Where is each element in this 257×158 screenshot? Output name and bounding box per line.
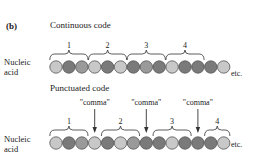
continuous-row-label-1: Nucleic [4, 57, 31, 67]
codon-brace [166, 50, 204, 60]
continuous-row-label-2: acid [4, 67, 19, 77]
codon-brace [50, 50, 88, 60]
codon-label: 1 [67, 41, 71, 50]
punctuated-title: Punctuated code [50, 83, 109, 93]
codon-label: 3 [144, 41, 148, 50]
codon-brace [101, 126, 139, 136]
comma-label: "comma" [183, 98, 213, 107]
comma-label: "comma" [131, 98, 161, 107]
codon-label: 2 [106, 41, 110, 50]
codon-brace [89, 50, 127, 60]
base-circle [63, 137, 75, 149]
punctuated-bases [50, 137, 230, 149]
base-circle [114, 61, 126, 73]
base-circle [205, 61, 217, 73]
base-circle [166, 137, 178, 149]
continuous-codon-braces: 1234 [50, 41, 204, 60]
continuous-bases [50, 61, 230, 73]
base-circle [127, 137, 139, 149]
base-circle [218, 137, 230, 149]
base-circle [192, 61, 204, 73]
codon-label: 3 [170, 117, 174, 126]
base-circle [205, 137, 217, 149]
arrow-head-icon [93, 127, 97, 133]
base-circle [101, 61, 113, 73]
base-circle [50, 137, 62, 149]
panel-label: (b) [6, 21, 17, 31]
base-circle [153, 61, 165, 73]
codon-label: 4 [215, 117, 219, 126]
punctuated-commas: "comma""comma""comma" [80, 98, 213, 133]
base-circle [89, 137, 101, 149]
genetic-code-diagram: (b) Continuous code Nucleic acid 1234 et… [0, 0, 257, 158]
codon-brace [50, 126, 88, 136]
continuous-title: Continuous code [50, 20, 111, 30]
comma-label: "comma" [80, 98, 110, 107]
codon-brace [153, 126, 191, 136]
base-circle [89, 61, 101, 73]
codon-brace [205, 126, 230, 136]
base-circle [179, 61, 191, 73]
continuous-etc: etc. [231, 69, 242, 78]
arrow-head-icon [144, 127, 148, 133]
punctuated-row-label-1: Nucleic [4, 134, 31, 144]
base-circle [179, 137, 191, 149]
base-circle [140, 61, 152, 73]
codon-label: 4 [183, 41, 187, 50]
base-circle [153, 137, 165, 149]
codon-label: 1 [67, 117, 71, 126]
base-circle [140, 137, 152, 149]
base-circle [76, 137, 88, 149]
base-circle [218, 61, 230, 73]
codon-label: 2 [119, 117, 123, 126]
punctuated-codon-braces: 1234 [50, 117, 230, 136]
base-circle [166, 61, 178, 73]
base-circle [101, 137, 113, 149]
base-circle [192, 137, 204, 149]
base-circle [114, 137, 126, 149]
base-circle [63, 61, 75, 73]
codon-brace [127, 50, 165, 60]
punctuated-etc: etc. [231, 140, 242, 149]
base-circle [50, 61, 62, 73]
base-circle [76, 61, 88, 73]
punctuated-row-label-2: acid [4, 144, 19, 154]
arrow-head-icon [196, 127, 200, 133]
base-circle [127, 61, 139, 73]
